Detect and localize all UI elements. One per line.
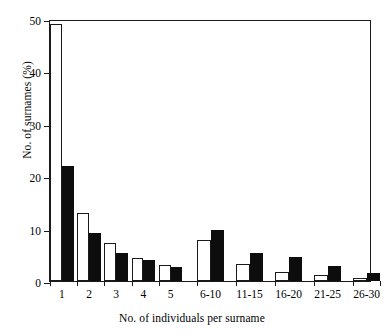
bar-filled [328, 266, 342, 281]
bar-open [197, 240, 211, 281]
bar-filled [171, 267, 183, 281]
x-axis-category-label: 26-30 [353, 288, 380, 300]
x-axis-title: No. of individuals per surname [0, 312, 384, 324]
y-axis-tick-label: 30 [30, 120, 42, 132]
bar-filled [89, 233, 101, 281]
bar-open [353, 278, 367, 281]
x-axis-tick [275, 281, 276, 286]
y-axis-tick [44, 231, 50, 232]
bar-filled [143, 260, 155, 281]
bar-open [159, 265, 171, 281]
y-axis-tick [44, 21, 50, 22]
x-axis-tick [380, 281, 381, 286]
y-axis-title: No. of surnames (%) [21, 35, 33, 185]
x-axis-category-label: 3 [113, 288, 119, 300]
bar-open [314, 275, 328, 281]
x-axis-tick [104, 281, 105, 286]
x-axis-category-label: 1 [59, 288, 65, 300]
bar-open [132, 258, 144, 281]
y-axis-tick-label: 40 [30, 67, 42, 79]
bar-filled [116, 253, 128, 281]
x-axis-tick [159, 281, 160, 286]
x-axis-category-label: 2 [86, 288, 92, 300]
y-axis-tick-label: 10 [30, 225, 42, 237]
plot-area: 01020304050123456-1011-1516-2021-2526-30 [49, 20, 371, 282]
bar-open [77, 213, 89, 281]
bar-open [275, 272, 289, 281]
bar-filled [62, 166, 74, 281]
bar-filled [250, 253, 264, 281]
y-axis-tick [44, 178, 50, 179]
x-axis-tick [50, 281, 51, 286]
x-axis-tick [314, 281, 315, 286]
x-axis-tick [132, 281, 133, 286]
y-axis-tick [44, 73, 50, 74]
x-axis-category-label: 4 [141, 288, 147, 300]
bar-filled [289, 257, 303, 281]
bar-open [236, 264, 250, 281]
y-axis-tick-label: 20 [30, 172, 42, 184]
y-axis-tick-label: 0 [35, 277, 41, 289]
x-axis-tick [236, 281, 237, 286]
y-axis-tick-label: 50 [30, 15, 42, 27]
x-axis-category-label: 11-15 [236, 288, 262, 300]
y-axis-tick [44, 126, 50, 127]
bar-open [104, 243, 116, 281]
bar-filled [367, 273, 381, 281]
bar-open [50, 24, 62, 281]
x-axis-category-label: 6-10 [200, 288, 221, 300]
x-axis-category-label: 16-20 [275, 288, 302, 300]
bar-filled [211, 230, 225, 281]
bars-layer [50, 21, 370, 281]
chart-root: No. of surnames (%) 01020304050123456-10… [0, 0, 384, 335]
x-axis-tick [197, 281, 198, 286]
x-axis-tick [353, 281, 354, 286]
x-axis-category-label: 5 [168, 288, 174, 300]
x-axis-tick [77, 281, 78, 286]
x-axis-category-label: 21-25 [314, 288, 341, 300]
